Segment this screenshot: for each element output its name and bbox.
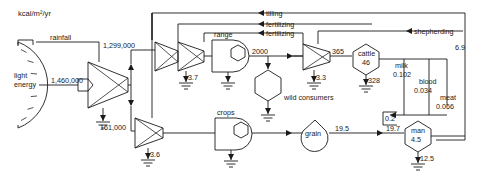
heat-range-interaction-value: 3.7 xyxy=(188,73,198,82)
flow-solar-input-value: 1,460,000 xyxy=(51,76,83,85)
flow-man-intake-value: 19.7 xyxy=(386,124,400,133)
heat-crops-interaction-value: 3.6 xyxy=(150,150,160,159)
cattle-products: milk 0.102 blood 0.034 meat 0.066 0.2 xyxy=(379,59,456,125)
fertilizing-1-label: fertilizing xyxy=(266,20,294,29)
interaction-crops: 3.6 xyxy=(135,13,163,166)
flow-cattle-intake-value: 365 xyxy=(332,47,344,56)
interaction-range-1 xyxy=(155,42,178,71)
interaction-cattle xyxy=(293,44,330,70)
man-label: man xyxy=(411,126,425,135)
flow-solar-to-crops-value: 161,000 xyxy=(100,123,126,132)
flow-cattle-intake: 365 xyxy=(330,47,352,56)
blood-label: blood xyxy=(419,77,437,86)
flow-solar-to-range-value: 1,299,000 xyxy=(103,41,135,50)
tilling-label: tilling xyxy=(266,9,282,18)
flow-range-to-cattle-value: 2000 xyxy=(252,47,268,56)
storage-range: range xyxy=(204,30,249,89)
heat-cattle-value: 328 xyxy=(368,76,380,85)
control-lines: tilling fertilizing fertilizing shepherd… xyxy=(152,9,465,45)
interaction-solar-converter xyxy=(88,62,128,128)
flow-range-output: 2000 xyxy=(249,47,303,69)
cattle-label: cattle xyxy=(358,49,375,58)
storage-crops: crops xyxy=(163,108,252,167)
range-label: range xyxy=(214,30,232,39)
light-energy-label-1: light xyxy=(14,71,27,80)
heat-man-value: 12.5 xyxy=(420,154,434,163)
cattle-value: 46 xyxy=(362,58,370,67)
rainfall-source: rainfall xyxy=(18,33,99,62)
milk-label: milk xyxy=(395,61,408,70)
flow-solar-outputs: 1,299,000 161,000 xyxy=(100,41,155,132)
grain-label: grain xyxy=(305,129,321,138)
flow-man-labor-value: 6.9 xyxy=(455,43,465,52)
diagram-canvas: kcal/m²/yr light energy rainfall 1,460,0… xyxy=(0,0,481,180)
shepherding-label: shepherding xyxy=(414,27,454,36)
heat-sink-cattle-interaction: 3.3 xyxy=(307,70,326,89)
fertilizing-2-label: fertilizing xyxy=(266,29,294,38)
light-energy-label-2: energy xyxy=(14,80,36,89)
blood-value: 0.034 xyxy=(414,86,432,95)
flow-grain-to-man: 19.5 19.7 xyxy=(329,124,404,136)
storage-man: man 4.5 12.5 xyxy=(405,121,465,170)
rainfall-label: rainfall xyxy=(50,33,72,42)
flow-crops-to-grain xyxy=(252,130,302,136)
interaction-range-2 xyxy=(178,42,204,71)
crops-label: crops xyxy=(217,108,235,117)
heat-sink-range-interaction: 3.7 xyxy=(179,71,198,89)
meat-value: 0.066 xyxy=(436,102,454,111)
wild-consumers-label: wild consumers xyxy=(283,93,334,102)
meat-label: meat xyxy=(440,93,456,102)
heat-cattle-interaction-value: 3.3 xyxy=(316,73,326,82)
milk-value: 0.102 xyxy=(393,70,411,79)
flow-products-to-man-value: 0.2 xyxy=(385,114,395,123)
storage-cattle: cattle 46 328 xyxy=(353,44,380,92)
energy-flow-diagram: kcal/m²/yr light energy rainfall 1,460,0… xyxy=(0,0,481,180)
man-value: 4.5 xyxy=(411,135,421,144)
unit-label: kcal/m²/yr xyxy=(18,9,51,18)
storage-grain: grain xyxy=(301,120,328,152)
flow-grain-yield-value: 19.5 xyxy=(335,124,349,133)
